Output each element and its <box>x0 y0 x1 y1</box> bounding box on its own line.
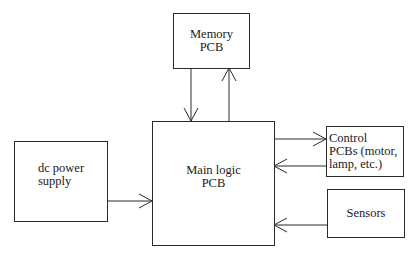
arrow-control-to-main <box>274 159 326 173</box>
arrow-main-to-control <box>274 132 326 146</box>
main-logic-pcb-label: Main logic PCB <box>186 164 241 190</box>
arrow-main-to-memory <box>222 68 236 121</box>
control-pcbs-block: Control PCBs (motor, lamp, etc.) <box>326 126 404 177</box>
arrow-power-to-main <box>107 194 152 208</box>
main-logic-pcb-block: Main logic PCB <box>152 121 275 246</box>
sensors-label: Sensors <box>347 207 386 220</box>
memory-pcb-block: Memory PCB <box>173 13 250 69</box>
arrow-sensors-to-main <box>274 218 327 232</box>
sensors-block: Sensors <box>327 189 405 238</box>
memory-pcb-label: Memory PCB <box>190 28 233 54</box>
dc-power-supply-block: dc power supply <box>14 141 108 222</box>
control-pcbs-label: Control PCBs (motor, lamp, etc.) <box>329 132 397 171</box>
dc-power-supply-label: dc power supply <box>38 162 84 188</box>
arrow-memory-to-main <box>184 68 198 121</box>
